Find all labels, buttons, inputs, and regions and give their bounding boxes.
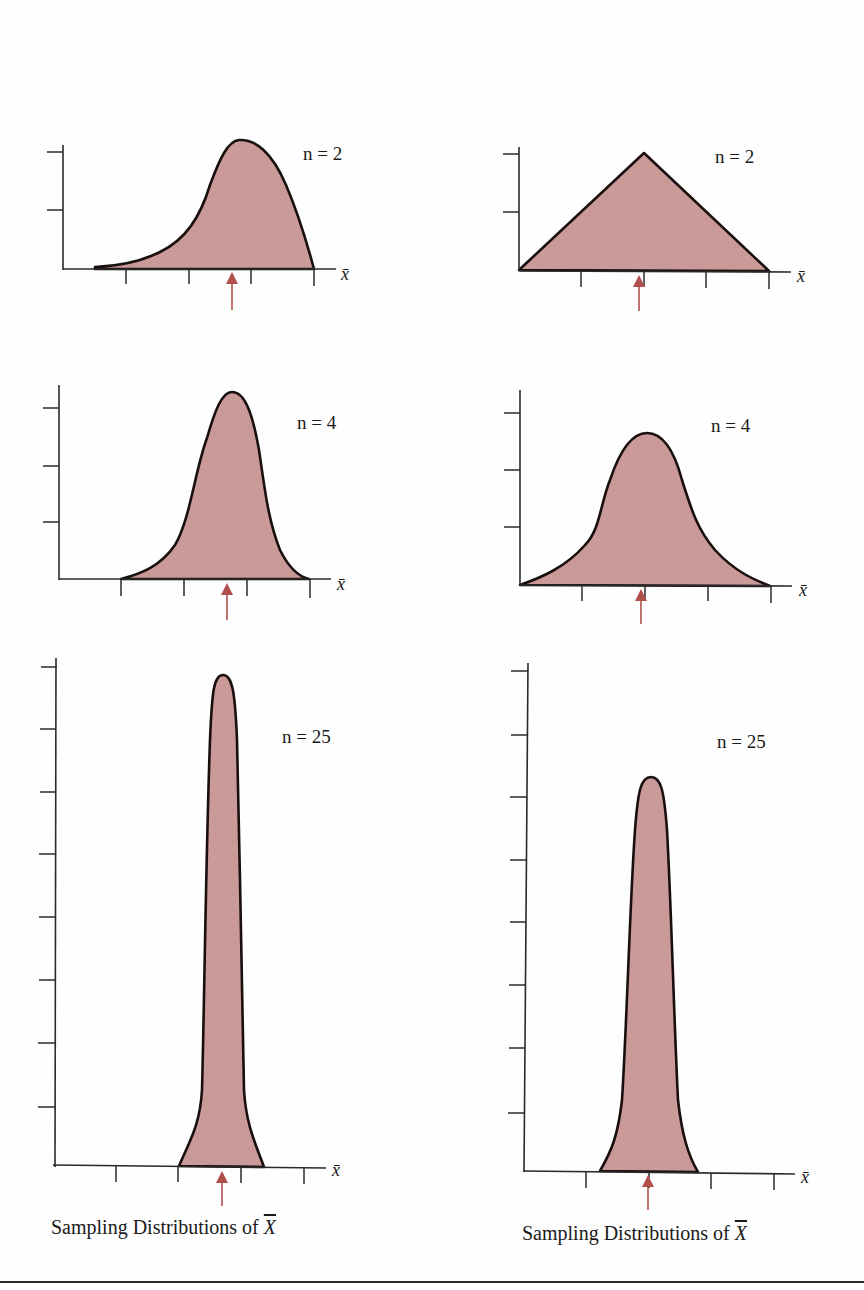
caption-symbol: X <box>735 1222 747 1244</box>
caption-symbol: X <box>264 1216 276 1238</box>
sample-size-label: n = 2 <box>715 146 754 167</box>
caption-text: Sampling Distributions of <box>51 1216 264 1238</box>
left-caption: Sampling Distributions of X <box>51 1216 276 1239</box>
sample-size-label: n = 25 <box>282 726 331 747</box>
y-axis <box>524 663 528 1172</box>
density-curve <box>121 392 309 579</box>
mean-arrow-icon <box>226 272 238 310</box>
y-axis <box>55 658 56 1167</box>
x-axis-label: x̄ <box>796 266 805 286</box>
caption-text: Sampling Distributions of <box>522 1222 735 1244</box>
density-curve <box>179 675 264 1167</box>
sample-size-label: n = 4 <box>711 415 751 436</box>
panel-left-n25: n = 25 x̄ <box>38 658 340 1206</box>
x-axis-label: x̄ <box>798 580 807 600</box>
sample-size-label: n = 4 <box>297 412 337 433</box>
x-axis-label: x̄ <box>340 264 349 284</box>
sample-size-label: n = 2 <box>303 143 342 164</box>
x-axis-label: x̄ <box>331 1160 340 1180</box>
density-curve <box>600 777 698 1172</box>
sample-size-label: n = 25 <box>717 731 766 752</box>
figure-canvas: n = 2 x̄ n = 2 x̄ n = <box>0 0 864 1290</box>
x-axis-label: x̄ <box>800 1167 809 1187</box>
density-curve <box>519 153 769 271</box>
panel-left-n2: n = 2 x̄ <box>47 140 349 310</box>
mean-arrow-icon <box>221 583 233 620</box>
right-caption: Sampling Distributions of X <box>522 1222 747 1245</box>
panel-left-n4: n = 4 x̄ <box>43 385 345 620</box>
mean-arrow-icon <box>642 1175 654 1210</box>
x-axis <box>519 271 791 272</box>
x-axis-label: x̄ <box>336 574 345 594</box>
density-curve <box>520 433 770 586</box>
panel-right-n25: n = 25 x̄ <box>508 663 809 1210</box>
panel-right-n4: n = 4 x̄ <box>504 390 807 624</box>
mean-arrow-icon <box>633 275 645 311</box>
x-axis <box>520 585 792 586</box>
panel-right-n2: n = 2 x̄ <box>503 146 805 311</box>
page-rule <box>0 1281 864 1283</box>
mean-arrow-icon <box>216 1171 228 1206</box>
density-curve <box>95 140 314 269</box>
